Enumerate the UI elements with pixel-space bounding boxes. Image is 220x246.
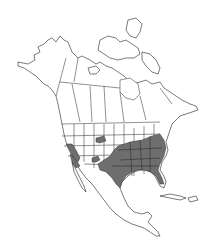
arctic-archipelago xyxy=(98,36,140,60)
north-america-map xyxy=(0,0,220,246)
ellesmere-island xyxy=(126,18,142,38)
hispaniola xyxy=(188,196,198,202)
cuba xyxy=(160,194,186,200)
baffin-island xyxy=(142,52,160,74)
mainland-outline xyxy=(18,36,198,236)
range-map xyxy=(0,0,220,246)
